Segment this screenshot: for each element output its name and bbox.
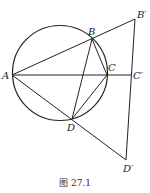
label-d: D	[66, 122, 75, 133]
label-d-prime: D′	[122, 163, 134, 174]
circumcircle	[13, 26, 108, 121]
label-b-prime: B′	[136, 9, 147, 20]
label-c: C	[108, 62, 116, 73]
segment-a-dprime	[12, 75, 126, 160]
segment-bprime-dprime	[126, 19, 135, 160]
figure-caption: 图 27.1	[59, 178, 91, 188]
geometry-figure: A B C D B′ C′ D′ 图 27.1	[0, 0, 150, 193]
label-a: A	[1, 70, 9, 81]
label-c-prime: C′	[133, 70, 144, 81]
label-b: B	[87, 26, 95, 37]
